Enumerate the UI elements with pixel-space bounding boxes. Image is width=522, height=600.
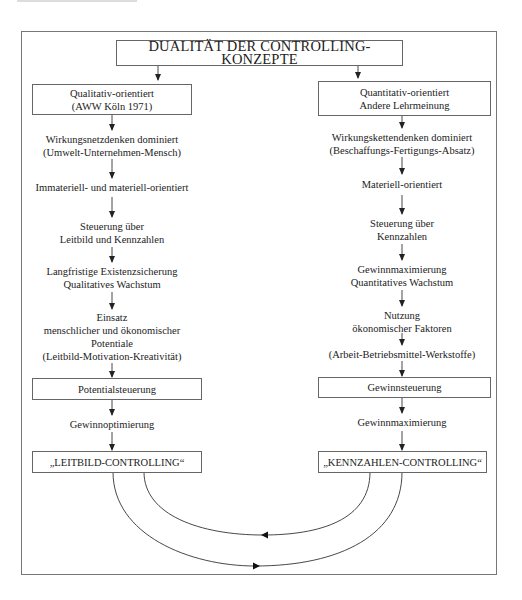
gewinnsteuerung-box: Gewinnsteuerung [318, 377, 491, 398]
right-header-box: Quantitativ-orientiert Andere Lehrmeinun… [318, 81, 491, 116]
right-step-3: Steuerung über Kennzahlen [370, 217, 434, 243]
outer-curve [113, 472, 402, 566]
right-header-line-1: Quantitativ-orientiert [360, 86, 449, 99]
left-step-1: Wirkungsnetzdenken dominiert (Umwelt-Unt… [43, 133, 181, 159]
left-header-line-2: (AWW Köln 1971) [72, 100, 153, 113]
left-goal: Gewinnoptimierung [70, 418, 155, 431]
left-header-line-1: Qualitativ-orientiert [70, 87, 154, 100]
left-step-5: Einsatz menschlicher und ökonomischer Po… [43, 311, 182, 363]
left-result-label: „LEITBILD-CONTROLLING“ [50, 456, 185, 469]
right-goal: Gewinnmaximierung [357, 416, 446, 429]
right-header-line-2: Andere Lehrmeinung [359, 99, 449, 112]
right-step-4: Gewinnmaximierung Quantitatives Wachstum [351, 263, 453, 289]
right-step-5: Nutzung ökonomischer Faktoren [352, 309, 451, 335]
kennzahlen-controlling-box: „KENNZAHLEN-CONTROLLING“ [318, 451, 487, 473]
inner-curve [144, 472, 370, 535]
left-control-label: Potentialsteuerung [78, 383, 156, 396]
right-step-1: Wirkungskettendenken dominiert (Beschaff… [329, 131, 474, 157]
left-step-2: Immateriell- und materiell-orientiert [36, 181, 189, 194]
leitbild-controlling-box: „LEITBILD-CONTROLLING“ [32, 451, 202, 473]
left-step-3: Steuerung über Leitbild und Kennzahlen [60, 220, 164, 246]
title-box: DUALITÄT DER CONTROLLING-KONZEPTE [116, 40, 403, 66]
right-result-label: „KENNZAHLEN-CONTROLLING“ [323, 456, 482, 469]
left-step-4: Langfristige Existenzsicherung Qualitati… [47, 265, 178, 291]
outer-curve-arrowhead-icon [253, 563, 260, 570]
diagram-title: DUALITÄT DER CONTROLLING-KONZEPTE [117, 40, 402, 66]
potentialsteuerung-box: Potentialsteuerung [32, 378, 202, 400]
right-control-label: Gewinnsteuerung [367, 381, 441, 394]
inner-curve-arrowhead-icon [261, 532, 268, 539]
right-step-6: (Arbeit-Betriebsmittel-Werkstoffe) [329, 348, 476, 361]
right-step-2: Materiell-orientiert [362, 178, 442, 191]
left-header-box: Qualitativ-orientiert (AWW Köln 1971) [32, 84, 192, 115]
